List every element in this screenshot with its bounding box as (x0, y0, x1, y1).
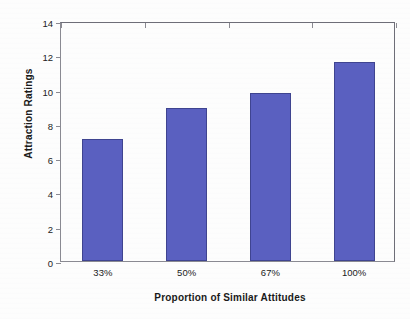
y-axis-tick-label: 10 (23, 86, 53, 97)
x-axis-tick-label: 50% (152, 267, 222, 278)
x-axis-tick-label: 100% (319, 267, 389, 278)
bar-chart-figure: Attraction Ratings 02468101214 33%50%67%… (0, 0, 410, 319)
bar-50 (166, 108, 207, 261)
y-axis-tick-mark (56, 57, 61, 58)
y-axis-tick-label: 12 (23, 52, 53, 63)
x-axis-tick-mark (145, 23, 146, 28)
bar-33 (82, 139, 123, 261)
x-axis-tick-mark (229, 23, 230, 28)
x-axis-tick-mark (396, 23, 397, 28)
bar-67 (250, 93, 291, 261)
x-axis-tick-mark (61, 23, 62, 28)
y-axis-tick-label: 6 (23, 155, 53, 166)
x-axis-tick-label: 67% (235, 267, 305, 278)
bar-100 (334, 62, 375, 261)
y-axis-tick-label: 14 (23, 18, 53, 29)
plot-area: 02468101214 33%50%67%100% (60, 22, 395, 262)
x-axis-tick-mark (312, 23, 313, 28)
y-axis-tick-label: 2 (23, 223, 53, 234)
y-axis-tick-mark (56, 194, 61, 195)
y-axis-tick-label: 4 (23, 189, 53, 200)
y-axis-tick-label: 0 (23, 258, 53, 269)
y-axis-tick-mark (56, 126, 61, 127)
x-axis-title: Proportion of Similar Attitudes (60, 292, 400, 303)
y-axis-tick-mark (56, 229, 61, 230)
y-axis-tick-mark (56, 263, 61, 264)
x-axis-tick-label: 33% (68, 267, 138, 278)
y-axis-tick-mark (56, 160, 61, 161)
y-axis-tick-mark (56, 92, 61, 93)
y-axis-tick-label: 8 (23, 120, 53, 131)
